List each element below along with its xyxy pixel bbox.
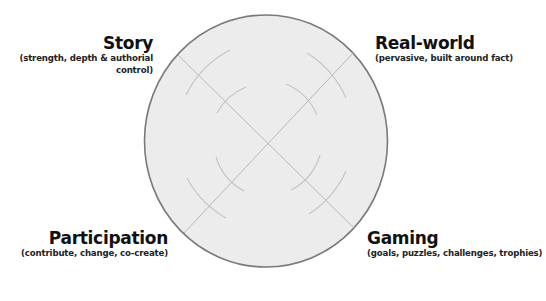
- quadrant-label-gaming: Gaming (goals, puzzles, challenges, trop…: [367, 228, 542, 260]
- quadrant-title-real-world: Real-world: [375, 33, 513, 53]
- quadrant-label-story: Story (strength, depth & authorial contr…: [0, 33, 153, 76]
- quadrant-title-story: Story: [0, 33, 153, 53]
- quadrant-label-participation: Participation (contribute, change, co-cr…: [21, 228, 168, 260]
- quadrant-subtitle-story: (strength, depth & authorial control): [0, 53, 153, 76]
- quadrant-title-participation: Participation: [21, 228, 168, 248]
- quadrant-title-gaming: Gaming: [367, 228, 542, 248]
- quadrant-subtitle-real-world: (pervasive, built around fact): [375, 53, 513, 65]
- quadrant-subtitle-gaming: (goals, puzzles, challenges, trophies): [367, 248, 542, 260]
- quadrant-label-real-world: Real-world (pervasive, built around fact…: [375, 33, 513, 65]
- quadrant-subtitle-participation: (contribute, change, co-create): [21, 248, 168, 260]
